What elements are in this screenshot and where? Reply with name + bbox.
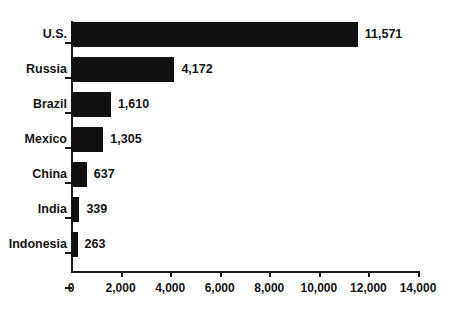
x-axis-tick — [418, 271, 420, 277]
bar-value-label: 637 — [94, 162, 115, 187]
x-axis-line — [71, 271, 419, 273]
category-label: China — [32, 162, 67, 187]
category-label: Brazil — [33, 92, 67, 117]
x-axis-tick-label: 10,000 — [300, 281, 337, 295]
bar — [71, 127, 103, 152]
x-axis-tick-label: 14,000 — [400, 281, 437, 295]
x-axis-tick-label: 6,000 — [205, 281, 235, 295]
x-axis-tick-label: 0 — [68, 281, 75, 295]
bar — [71, 22, 358, 47]
bar — [71, 197, 79, 222]
category-label: U.S. — [43, 22, 67, 47]
x-axis-tick-label: 8,000 — [254, 281, 284, 295]
bar — [71, 57, 174, 82]
bar — [71, 92, 111, 117]
bar-value-label: 1,610 — [118, 92, 149, 117]
bar-chart: 11,5714,1721,6101,305637339263 U.S.Russi… — [0, 0, 464, 311]
bar — [71, 162, 87, 187]
x-axis-tick — [220, 271, 222, 277]
bar-value-label: 4,172 — [181, 57, 212, 82]
x-axis-tick — [121, 271, 123, 277]
x-axis-tick-label: 2,000 — [106, 281, 136, 295]
x-axis-tick — [170, 271, 172, 277]
category-label: Indonesia — [9, 232, 67, 257]
x-axis-tick-label: 4,000 — [155, 281, 185, 295]
x-axis-tick-label: 12,000 — [350, 281, 387, 295]
bar-value-label: 339 — [86, 197, 107, 222]
x-axis-tick — [368, 271, 370, 277]
bar-value-label: 11,571 — [365, 22, 403, 47]
bar — [71, 232, 78, 257]
category-label: Mexico — [25, 127, 67, 152]
x-axis-tick — [269, 271, 271, 277]
category-label: Russia — [26, 57, 67, 82]
category-label: India — [38, 197, 67, 222]
plot-area: 11,5714,1721,6101,305637339263 — [71, 22, 418, 271]
chart-title — [0, 0, 464, 3]
x-axis-tick — [319, 271, 321, 277]
bar-value-label: 1,305 — [110, 127, 141, 152]
bar-value-label: 263 — [85, 232, 106, 257]
